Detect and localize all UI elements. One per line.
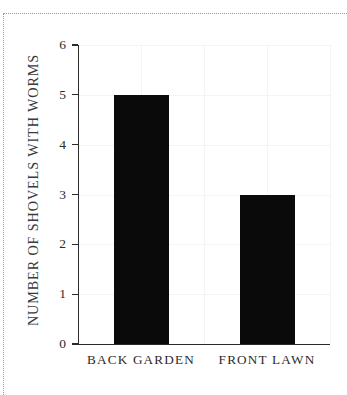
y-axis-tick-label: 0 bbox=[46, 337, 66, 351]
y-axis-tick bbox=[72, 144, 78, 145]
page-rule-top bbox=[3, 13, 347, 14]
page-rule-left bbox=[3, 13, 4, 395]
bar bbox=[240, 195, 295, 345]
chart-figure: NUMBER OF SHOVELS WITH WORMS 0123456 BAC… bbox=[0, 0, 347, 395]
y-axis-tick bbox=[72, 244, 78, 245]
y-axis-tick-label: 4 bbox=[46, 138, 66, 152]
bar bbox=[114, 95, 169, 344]
gridline-vertical bbox=[204, 45, 205, 344]
y-axis-tick-label: 3 bbox=[46, 188, 66, 202]
y-axis-tick bbox=[72, 294, 78, 295]
y-axis-tick-label: 6 bbox=[46, 38, 66, 52]
x-axis-tick-label: FRONT LAWN bbox=[177, 352, 347, 368]
y-axis-line bbox=[78, 45, 79, 345]
y-axis-tick bbox=[72, 194, 78, 195]
y-axis-tick-label: 5 bbox=[46, 88, 66, 102]
gridline-vertical bbox=[330, 45, 331, 344]
y-axis-tick-label: 1 bbox=[46, 287, 66, 301]
y-axis-title: NUMBER OF SHOVELS WITH WORMS bbox=[22, 25, 44, 355]
y-axis-tick bbox=[72, 44, 78, 45]
y-axis-tick bbox=[72, 343, 78, 344]
y-axis-tick-label: 2 bbox=[46, 237, 66, 251]
y-axis-tick bbox=[72, 94, 78, 95]
